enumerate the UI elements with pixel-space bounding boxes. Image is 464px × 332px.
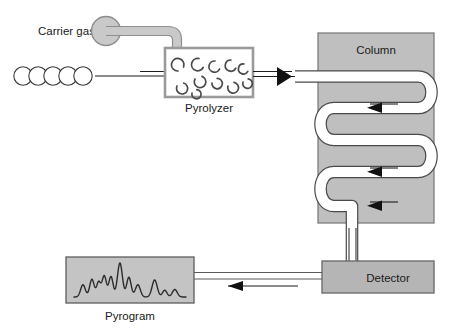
pyrogram-group: Pyrogram <box>66 257 194 322</box>
column-capillary <box>295 77 432 263</box>
signal-arrowhead-icon <box>228 281 243 291</box>
pyrolyzer-group: Pyrolyzer <box>165 48 253 114</box>
column-label: Column <box>356 44 396 56</box>
carrier-gas-label: Carrier gas <box>38 25 95 37</box>
column-group: Column <box>295 33 434 262</box>
detector-label: Detector <box>366 272 410 284</box>
detector-group: Detector <box>322 261 434 293</box>
transfer-arrowhead-icon <box>277 67 292 86</box>
pyrogram-label: Pyrogram <box>105 310 155 322</box>
diagram-canvas: Carrier gas <box>0 0 464 332</box>
detector-to-pyrogram-flow <box>194 273 322 292</box>
sample-chain-group <box>14 67 92 85</box>
column-box <box>318 33 434 223</box>
polymer-unit-circle <box>74 67 92 85</box>
pyrolyzer-label: Pyrolyzer <box>185 102 233 114</box>
pyrolysis-gc-diagram: Carrier gas <box>0 0 464 332</box>
carrier-gas-group: Carrier gas <box>38 17 182 52</box>
